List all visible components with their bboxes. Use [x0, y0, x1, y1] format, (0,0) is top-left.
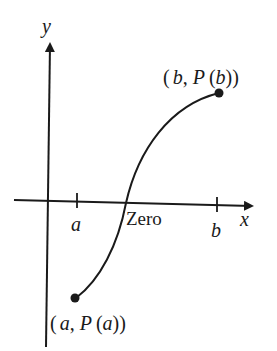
paren: ( [163, 66, 170, 89]
point-b-label: (b,P(b)) [163, 66, 239, 89]
diagram-canvas: y x a b Zero (b,P(b)) (a,P(a)) [0, 0, 277, 351]
y-axis-label: y [40, 15, 51, 38]
var-a: a [60, 312, 70, 334]
zero-label: Zero [126, 208, 162, 229]
point-a-label: (a,P(a)) [50, 312, 126, 335]
var-b: b [173, 66, 183, 88]
point-b [215, 89, 224, 98]
y-axis [46, 44, 50, 347]
arg-b: b [216, 66, 226, 88]
polynomial-curve [76, 93, 219, 298]
func-p: P [79, 312, 92, 334]
comma: , [183, 66, 188, 88]
comma: , [70, 312, 75, 334]
x-axis-label: x [239, 208, 249, 230]
paren: )) [113, 312, 126, 335]
tick-b-label: b [211, 219, 221, 241]
paren: )) [226, 66, 239, 89]
arg-a: a [103, 312, 113, 334]
point-a [71, 294, 80, 303]
paren: ( [50, 312, 57, 335]
func-p: P [192, 66, 205, 88]
tick-a-label: a [71, 213, 81, 235]
